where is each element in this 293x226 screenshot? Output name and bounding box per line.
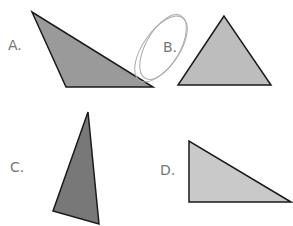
label-c: C. — [10, 159, 24, 175]
triangles-figure — [0, 0, 293, 226]
triangle-b[interactable] — [178, 16, 271, 85]
label-d: D. — [160, 162, 175, 178]
label-b: B. — [163, 39, 177, 55]
label-a: A. — [8, 37, 22, 53]
triangle-c[interactable] — [53, 112, 99, 224]
triangle-d[interactable] — [189, 141, 291, 202]
triangle-a[interactable] — [32, 12, 153, 87]
